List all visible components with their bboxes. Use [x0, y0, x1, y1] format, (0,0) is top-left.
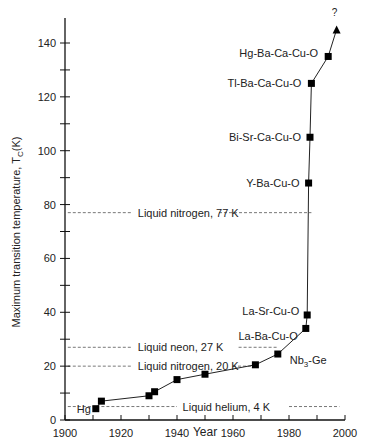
- point-label: Bi-Sr-Ca-Cu-O: [229, 131, 302, 143]
- data-point-marker: [274, 351, 281, 358]
- data-point-marker: [252, 361, 259, 368]
- y-tick-label: 60: [44, 252, 56, 264]
- data-point-marker: [202, 371, 209, 378]
- reference-label: Liquid helium, 4 K: [183, 401, 271, 413]
- y-tick-label: 80: [44, 199, 56, 211]
- y-tick-label: 100: [38, 145, 56, 157]
- y-tick-label: 0: [50, 414, 56, 426]
- x-tick-label: 1920: [109, 427, 133, 439]
- data-point-marker: [98, 398, 105, 405]
- data-point-marker: [308, 80, 315, 87]
- y-axis-label: Maximum transition temperature, TC(K): [10, 137, 25, 328]
- x-tick-label: 1960: [221, 427, 245, 439]
- data-point-marker: [92, 405, 99, 412]
- point-label: La-Ba-Cu-O: [239, 330, 299, 342]
- y-tick-label: 120: [38, 91, 56, 103]
- reference-label: Liquid nitrogen, 77 K: [138, 207, 240, 219]
- x-tick-label: 2000: [333, 427, 357, 439]
- data-point-marker: [302, 325, 309, 332]
- point-label: La-Sr-Cu-O: [242, 305, 299, 317]
- projection-arrow-icon: [333, 26, 341, 34]
- point-label: Hg: [77, 403, 91, 415]
- data-point-marker: [151, 388, 158, 395]
- tc-history-chart: Liquid nitrogen, 77 KLiquid neon, 27 KLi…: [0, 0, 369, 442]
- y-tick-label: 140: [38, 37, 56, 49]
- data-point-marker: [307, 134, 314, 141]
- data-point-marker: [304, 311, 311, 318]
- data-point-marker: [325, 53, 332, 60]
- y-tick-label: 40: [44, 306, 56, 318]
- x-tick-label: 1900: [53, 427, 77, 439]
- x-tick-label: 1940: [165, 427, 189, 439]
- data-point-marker: [174, 376, 181, 383]
- point-label: Y-Ba-Cu-O: [246, 177, 300, 189]
- x-tick-label: 1980: [277, 427, 301, 439]
- x-axis-label: Year: [193, 425, 217, 439]
- y-tick-label: 20: [44, 360, 56, 372]
- data-point-marker: [305, 180, 312, 187]
- point-label: Nb3-Ge: [290, 354, 327, 369]
- reference-label: Liquid neon, 27 K: [138, 341, 224, 353]
- projection-label: ?: [332, 7, 338, 18]
- point-label: Tl-Ba-Ca-Cu-O: [227, 77, 301, 89]
- point-label: Hg-Ba-Ca-Cu-O: [239, 47, 318, 59]
